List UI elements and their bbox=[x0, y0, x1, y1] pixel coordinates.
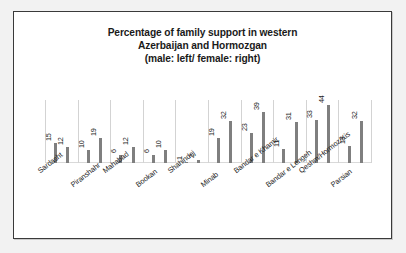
bar bbox=[132, 147, 135, 163]
bar bbox=[348, 146, 351, 163]
chart-title-line-2: Azerbaijan and Hormozgan bbox=[14, 39, 391, 52]
chart-title: Percentage of family support in western … bbox=[14, 26, 391, 66]
chart-frame: Percentage of family support in western … bbox=[13, 11, 392, 239]
bar bbox=[152, 155, 155, 163]
bar-value-label: 15 bbox=[44, 134, 53, 142]
bar-value-label: 44 bbox=[317, 96, 326, 104]
x-axis-category-label: Piranshahr bbox=[69, 161, 102, 189]
gridline bbox=[273, 100, 274, 163]
gridline bbox=[175, 100, 176, 163]
bar bbox=[217, 138, 220, 163]
bar-value-label: 32 bbox=[219, 111, 228, 119]
chart-title-line-1: Percentage of family support in western bbox=[14, 26, 391, 39]
bar-value-label: 10 bbox=[77, 140, 86, 148]
bar-value-label: 10 bbox=[154, 140, 163, 148]
bar-value-label: 32 bbox=[350, 111, 359, 119]
x-axis-category-label: Bookan bbox=[134, 167, 159, 189]
bar bbox=[66, 147, 69, 163]
bar-value-label: 12 bbox=[121, 138, 130, 146]
x-axis-category-label: Minab bbox=[199, 170, 220, 189]
bar bbox=[229, 121, 232, 163]
gridline bbox=[110, 100, 111, 163]
x-axis-category-label: Parsian bbox=[329, 167, 354, 189]
bar-value-label: 19 bbox=[207, 128, 216, 136]
bar bbox=[87, 150, 90, 163]
bar bbox=[99, 138, 102, 163]
bar-value-label: 12 bbox=[56, 138, 65, 146]
chart-title-line-3: (male: left/ female: right) bbox=[14, 52, 391, 65]
gridline bbox=[143, 100, 144, 163]
bar bbox=[360, 121, 363, 163]
bar-value-label: 19 bbox=[89, 128, 98, 136]
gridline bbox=[78, 100, 79, 163]
gridline bbox=[371, 100, 372, 163]
bar-value-label: 31 bbox=[284, 113, 293, 121]
figure-canvas: Percentage of family support in western … bbox=[0, 0, 406, 253]
gridline bbox=[241, 100, 242, 163]
bar-value-label: 39 bbox=[252, 102, 261, 110]
bar bbox=[282, 149, 285, 163]
bar-value-label: 6 bbox=[109, 149, 118, 153]
bar-value-label: 23 bbox=[240, 123, 249, 131]
bar bbox=[197, 160, 200, 163]
bar-value-label: 33 bbox=[305, 110, 314, 118]
bar bbox=[164, 150, 167, 163]
bar-value-label: 6 bbox=[142, 149, 151, 153]
gridline bbox=[338, 100, 339, 163]
gridline bbox=[45, 100, 46, 163]
